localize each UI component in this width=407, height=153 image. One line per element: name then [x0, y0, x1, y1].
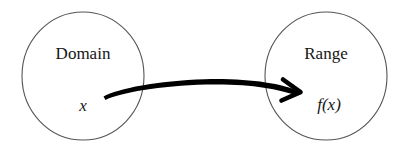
domain-circle [22, 12, 144, 140]
range-element-label: f(x) [317, 95, 341, 114]
domain-set-group: Domain x [22, 12, 144, 140]
diagram-canvas: Domain x Range f(x) [0, 0, 407, 153]
range-circle [265, 12, 387, 140]
function-mapping-diagram: Domain x Range f(x) [0, 0, 407, 153]
range-set-group: Range f(x) [265, 12, 387, 140]
domain-label: Domain [56, 44, 111, 63]
range-label: Range [304, 44, 347, 63]
domain-element-label: x [78, 96, 87, 115]
